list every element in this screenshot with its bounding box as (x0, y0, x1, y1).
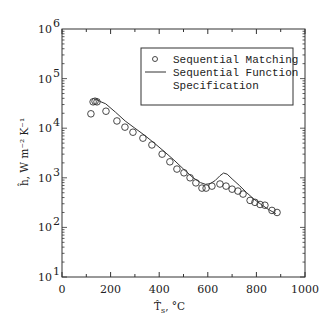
legend-label: Sequential Matching (173, 54, 298, 66)
x-tick-label: 0 (59, 283, 66, 296)
legend-label: Specification (173, 80, 259, 92)
series-sequential-matching (88, 98, 281, 216)
x-tick-label: 600 (197, 283, 218, 296)
data-point (114, 118, 121, 125)
data-point (140, 135, 147, 142)
data-point (193, 180, 200, 187)
y-tick-exponent: 4 (53, 116, 60, 129)
function-specification-line (96, 99, 276, 213)
y-tick-label: 10 (38, 122, 52, 135)
legend: Sequential MatchingSequential FunctionSp… (141, 48, 298, 105)
data-point (130, 129, 137, 136)
x-tick-label: 800 (246, 283, 267, 296)
x-tick-label: 400 (149, 283, 170, 296)
y-tick-exponent: 1 (53, 265, 60, 278)
data-point (209, 183, 216, 190)
y-tick-exponent: 6 (53, 17, 60, 30)
data-point (103, 108, 110, 115)
y-tick-exponent: 5 (53, 67, 60, 80)
data-point (217, 181, 224, 188)
y-tick-label: 10 (38, 172, 52, 185)
data-point (240, 191, 247, 198)
data-point (181, 170, 188, 177)
data-point (223, 183, 230, 190)
data-point (174, 166, 181, 173)
y-tick-label: 10 (38, 73, 52, 86)
y-tick-labels: 101102103104105106 (38, 17, 60, 284)
y-tick-label: 10 (38, 221, 52, 234)
y-tick-exponent: 2 (53, 215, 60, 228)
x-tick-labels: 02004006008001000 (59, 283, 320, 296)
y-tick-exponent: 3 (53, 166, 60, 179)
data-point (159, 151, 166, 158)
data-point (88, 111, 95, 118)
legend-label: Sequential Function (173, 67, 298, 79)
data-point (149, 142, 156, 149)
y-tick-label: 10 (38, 271, 52, 284)
x-tick-label: 1000 (291, 283, 319, 296)
data-point (122, 124, 129, 131)
series-sequential-function-specification (96, 99, 276, 213)
y-tick-label: 10 (38, 23, 52, 36)
y-axis-label: ĥ, W m⁻² K⁻¹ (17, 118, 30, 187)
x-axis-label: T̂s, °C (154, 300, 185, 315)
chart: 02004006008001000 101102103104105106 Seq… (0, 0, 335, 332)
data-point (167, 159, 174, 166)
x-tick-label: 200 (100, 283, 121, 296)
